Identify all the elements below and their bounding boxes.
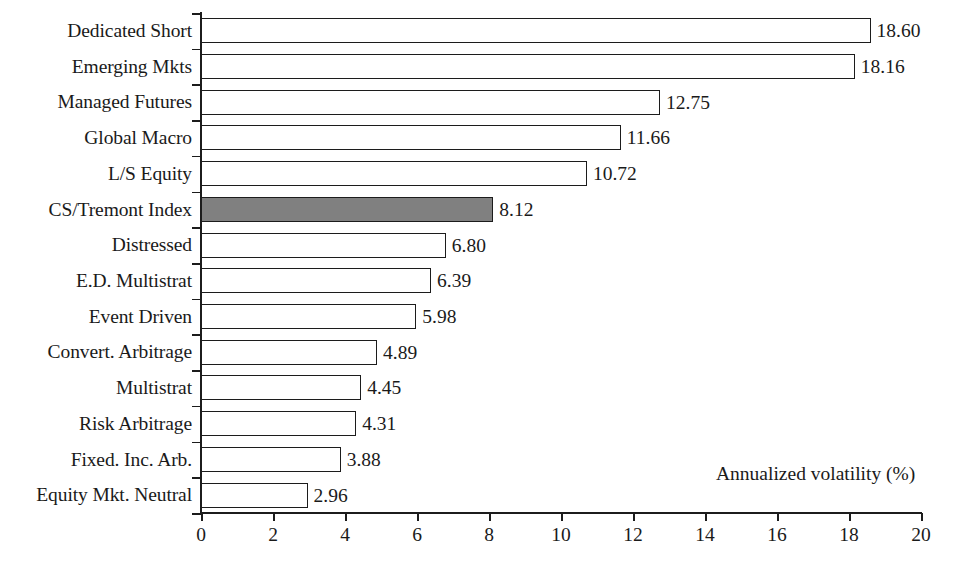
chart-row: Multistrat4.45: [201, 370, 921, 406]
bar-value-label: 4.31: [362, 411, 396, 436]
category-label: CS/Tremont Index: [49, 192, 192, 228]
bar: [201, 304, 416, 329]
x-axis-tick: [561, 513, 563, 521]
x-axis-tick-label: 4: [340, 524, 350, 546]
y-axis-tick: [192, 299, 201, 301]
y-axis-tick: [192, 442, 201, 444]
bar-value-label: 6.80: [452, 233, 486, 258]
x-axis-tick: [417, 513, 419, 521]
bar: [201, 233, 446, 258]
category-label: E.D. Multistrat: [76, 263, 192, 299]
y-axis-tick: [192, 84, 201, 86]
x-axis-tick: [849, 513, 851, 521]
bar-value-label: 12.75: [666, 90, 710, 115]
y-axis-tick: [192, 513, 201, 515]
x-axis-tick: [201, 513, 203, 521]
x-axis-tick: [489, 513, 491, 521]
x-axis-tick: [777, 513, 779, 521]
bar: [201, 125, 621, 150]
bar-value-label: 4.45: [367, 375, 401, 400]
category-label: Managed Futures: [58, 84, 192, 120]
bar: [201, 90, 660, 115]
bar: [201, 18, 871, 43]
x-axis-tick-label: 8: [484, 524, 494, 546]
category-label: Event Driven: [89, 299, 192, 335]
category-label: Risk Arbitrage: [79, 406, 192, 442]
y-axis-tick: [192, 13, 201, 15]
bar: [201, 411, 356, 436]
chart-row: Event Driven5.98: [201, 299, 921, 335]
category-label: Distressed: [112, 227, 192, 263]
bar-value-label: 3.88: [347, 447, 381, 472]
x-axis-tick-label: 0: [196, 524, 206, 546]
bar-value-label: 6.39: [437, 268, 471, 293]
category-label: Equity Mkt. Neutral: [36, 477, 192, 513]
category-label: Multistrat: [116, 370, 192, 406]
bar-value-label: 11.66: [627, 125, 670, 150]
category-label: Convert. Arbitrage: [48, 334, 192, 370]
bar-highlighted: [201, 197, 493, 222]
bar-value-label: 18.60: [877, 18, 921, 43]
x-axis-tick-label: 6: [412, 524, 422, 546]
category-label: Emerging Mkts: [72, 49, 192, 85]
chart-row: CS/Tremont Index8.12: [201, 192, 921, 228]
bar-chart: Dedicated Short18.60Emerging Mkts18.16Ma…: [0, 0, 961, 583]
category-label: L/S Equity: [108, 156, 192, 192]
bar-value-label: 2.96: [314, 483, 348, 508]
bar-value-label: 8.12: [499, 197, 533, 222]
chart-row: Managed Futures12.75: [201, 84, 921, 120]
x-axis-tick-label: 20: [911, 524, 931, 546]
chart-row: L/S Equity10.72: [201, 156, 921, 192]
bar: [201, 161, 587, 186]
category-label: Global Macro: [84, 120, 192, 156]
y-axis-tick: [192, 49, 201, 51]
y-axis-tick: [192, 406, 201, 408]
x-axis-tick-label: 16: [767, 524, 787, 546]
x-axis-tick-label: 2: [268, 524, 278, 546]
chart-row: Emerging Mkts18.16: [201, 49, 921, 85]
y-axis-tick: [192, 192, 201, 194]
y-axis-tick: [192, 477, 201, 479]
y-axis-tick: [192, 156, 201, 158]
x-axis-title: Annualized volatility (%): [716, 463, 915, 485]
x-axis-tick: [273, 513, 275, 521]
x-axis-tick: [705, 513, 707, 521]
bar: [201, 447, 341, 472]
chart-row: Global Macro11.66: [201, 120, 921, 156]
bar-value-label: 4.89: [383, 340, 417, 365]
chart-row: Distressed6.80: [201, 227, 921, 263]
y-axis-tick: [192, 227, 201, 229]
chart-row: E.D. Multistrat6.39: [201, 263, 921, 299]
bar-value-label: 10.72: [593, 161, 637, 186]
y-axis-tick: [192, 263, 201, 265]
chart-row: Dedicated Short18.60: [201, 13, 921, 49]
x-axis-tick: [921, 513, 923, 521]
y-axis-tick: [192, 334, 201, 336]
category-label: Fixed. Inc. Arb.: [71, 442, 192, 478]
plot-area: Dedicated Short18.60Emerging Mkts18.16Ma…: [201, 13, 921, 513]
x-axis-tick: [345, 513, 347, 521]
x-axis-tick-label: 14: [695, 524, 715, 546]
bar: [201, 483, 308, 508]
bar-value-label: 18.16: [861, 54, 905, 79]
y-axis-tick: [192, 370, 201, 372]
chart-row: Convert. Arbitrage4.89: [201, 334, 921, 370]
x-axis-tick: [633, 513, 635, 521]
chart-row: Risk Arbitrage4.31: [201, 406, 921, 442]
bar: [201, 375, 361, 400]
y-axis-tick: [192, 120, 201, 122]
category-label: Dedicated Short: [67, 13, 192, 49]
x-axis-tick-label: 18: [839, 524, 859, 546]
x-axis-tick-label: 12: [623, 524, 643, 546]
bar: [201, 54, 855, 79]
bar-value-label: 5.98: [422, 304, 456, 329]
x-axis-tick-label: 10: [551, 524, 571, 546]
bar: [201, 340, 377, 365]
bar: [201, 268, 431, 293]
